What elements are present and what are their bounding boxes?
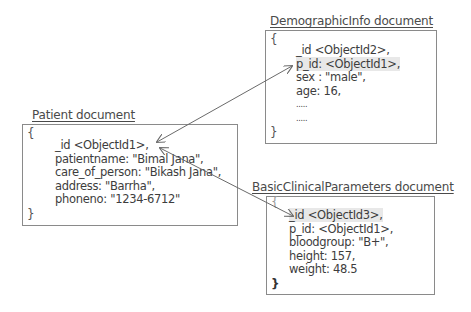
arrow-demographic-to-patient: [157, 66, 292, 142]
arrow-clinical-to-patient: [160, 148, 293, 216]
relationship-arrows: [0, 0, 471, 312]
